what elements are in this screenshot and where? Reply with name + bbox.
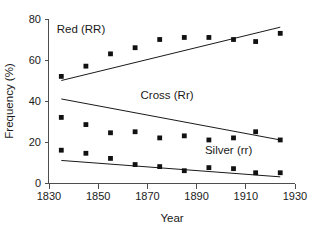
trend-line-silver-rr [61,160,280,176]
x-tick-label: 1930 [283,190,307,202]
data-point-marker [108,130,113,135]
data-point-marker [59,115,64,120]
data-point-marker [182,35,187,40]
data-point-marker [207,138,212,143]
y-tick-label: 40 [29,95,41,107]
data-point-marker [253,129,258,134]
data-point-marker [157,136,162,141]
data-point-marker [253,39,258,44]
chart-figure: 020406080 183018501870189019101930 Red (… [0,0,321,228]
data-point-marker [108,51,113,56]
data-point-marker [207,35,212,40]
data-point-marker [108,156,113,161]
data-point-marker [59,148,64,153]
data-point-marker [231,166,236,171]
data-point-marker [84,64,89,69]
y-tick-label: 60 [29,54,41,66]
x-tick-label: 1850 [86,190,110,202]
x-tick-label: 1910 [234,190,258,202]
data-point-marker [278,31,283,36]
x-axis: 183018501870189019101930 [37,184,307,203]
data-point-marker [231,136,236,141]
series-labels: Red (RR)Cross (Rr)Silver (rr) [57,23,253,156]
data-point-marker [231,37,236,42]
data-point-marker [59,74,64,79]
data-point-marker [278,170,283,175]
data-point-marker [182,168,187,173]
x-axis-title: Year [160,212,183,224]
trend-line-cross-rr [61,99,280,140]
y-axis: 020406080 [29,13,49,189]
data-point-marker [133,45,138,50]
y-tick-label: 80 [29,13,41,25]
data-point-marker [157,37,162,42]
data-point-marker [133,162,138,167]
data-point-marker [278,138,283,143]
data-point-marker [207,165,212,170]
data-point-marker [133,129,138,134]
x-tick-label: 1830 [37,190,61,202]
frequency-year-scatter-chart: 020406080 183018501870189019101930 Red (… [0,0,321,228]
data-point-marker [182,133,187,138]
data-point-marker [84,151,89,156]
series-label-red-rr: Red (RR) [57,23,106,35]
y-tick-label: 20 [29,136,41,148]
data-point-marker [157,164,162,169]
x-tick-label: 1870 [135,190,159,202]
data-point-marker [253,170,258,175]
y-tick-label: 0 [35,177,41,189]
x-tick-label: 1890 [184,190,208,202]
y-axis-title: Frequency (%) [3,63,15,139]
data-point-marker [84,122,89,127]
series-label-silver-rr: Silver (rr) [205,144,252,156]
series-label-cross-rr: Cross (Rr) [141,89,194,101]
